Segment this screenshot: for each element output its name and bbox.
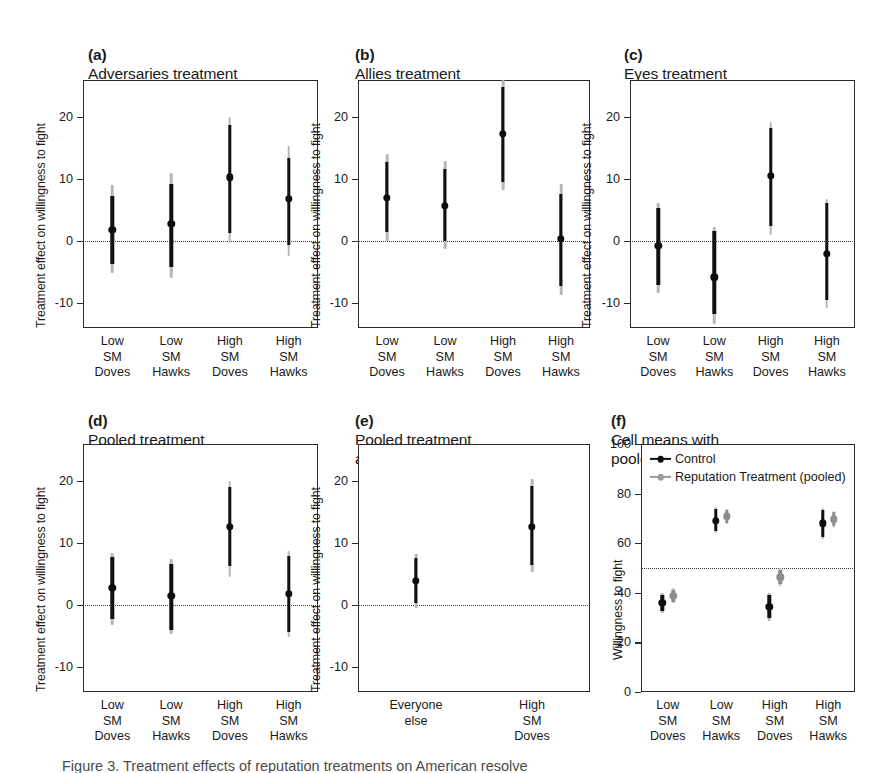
- panel-d-xtick-label: High SM Doves: [212, 698, 248, 745]
- panel-f-legend: ControlReputation Treatment (pooled): [650, 450, 846, 486]
- panel-f-xtick-label: High SM Doves: [757, 698, 793, 745]
- panel-f-ytick-mark: [635, 593, 641, 594]
- panel-f-ytick-label: 60: [0, 536, 631, 550]
- panel-c-title: (c) Eyes treatment: [624, 26, 854, 83]
- panel-c-ytick-mark: [624, 179, 630, 180]
- panel-e-xtick-label: Everyone else: [389, 698, 442, 729]
- panel-f-ytick-mark: [635, 692, 641, 693]
- panel-a-xtick-label: Low SM Doves: [95, 334, 131, 381]
- legend-item-label: Reputation Treatment (pooled): [675, 468, 846, 486]
- legend-item-label: Control: [675, 450, 716, 468]
- panel-f-ytick-mark: [635, 444, 641, 445]
- panel-c-ytick-label: 20: [0, 110, 620, 124]
- panel-b-xtick-label: High SM Doves: [485, 334, 521, 381]
- panel-c-xtick-label: High SM Hawks: [808, 334, 846, 381]
- panel-f-xtick-label: Low SM Doves: [650, 698, 686, 745]
- panel-e-ytick-mark: [352, 667, 358, 668]
- panel-e-ytick-mark: [352, 481, 358, 482]
- panel-f-ytick-label: 80: [0, 487, 631, 501]
- panel-b-tag: (b): [355, 46, 375, 63]
- panel-c-reference-line: [630, 241, 855, 242]
- panel-c-ytick-mark: [624, 303, 630, 304]
- panel-e-xtick-label: High SM Doves: [514, 698, 550, 745]
- panel-f-ytick-label: 40: [0, 586, 631, 600]
- panel-f-ytick-label: 0: [0, 685, 631, 699]
- panel-a-title: (a) Adversaries treatment: [88, 26, 338, 83]
- figure-caption-clipped: Figure 3. Treatment effects of reputatio…: [0, 760, 870, 773]
- panel-f-xtick-label: High SM Hawks: [809, 698, 847, 745]
- panel-b-title: (b) Allies treatment: [355, 26, 585, 83]
- figure-caption-text: Figure 3. Treatment effects of reputatio…: [62, 760, 528, 773]
- panel-e-plot-area: [358, 444, 590, 692]
- panel-c-tag: (c): [624, 46, 643, 63]
- panel-d-xtick-label: High SM Hawks: [270, 698, 308, 745]
- panel-f-ytick-label: 100: [0, 437, 631, 451]
- panel-a-xtick-label: High SM Doves: [212, 334, 248, 381]
- legend-marker-icon: [650, 472, 671, 482]
- legend-item[interactable]: Control: [650, 450, 846, 468]
- panel-a-xtick-label: High SM Hawks: [270, 334, 308, 381]
- panel-e-reference-line: [358, 605, 590, 606]
- panel-c-ytick-label: 0: [0, 234, 620, 248]
- panel-f-plot-area: ControlReputation Treatment (pooled): [641, 444, 855, 692]
- legend-marker-icon: [650, 454, 671, 464]
- legend-item[interactable]: Reputation Treatment (pooled): [650, 468, 846, 486]
- panel-b-xtick-label: High SM Hawks: [542, 334, 580, 381]
- panel-b-xtick-label: Low SM Hawks: [426, 334, 464, 381]
- panel-c-plot-area: [630, 80, 855, 328]
- panel-f-tag: (f): [611, 412, 626, 429]
- panel-f-xtick-label: Low SM Hawks: [702, 698, 740, 745]
- panel-f-ytick-label: 20: [0, 635, 631, 649]
- panel-b-xtick-label: Low SM Doves: [369, 334, 405, 381]
- panel-a-tag: (a): [88, 46, 107, 63]
- panel-c-ytick-label: -10: [0, 296, 620, 310]
- panel-d-xtick-label: Low SM Hawks: [152, 698, 190, 745]
- panel-c-ytick-mark: [624, 117, 630, 118]
- panel-e-frame: [358, 444, 590, 692]
- panel-f-ytick-mark: [635, 642, 641, 643]
- panel-c-ytick-label: 10: [0, 172, 620, 186]
- panel-c-frame: [630, 80, 855, 328]
- panel-e-ytick-label: 0: [0, 598, 348, 612]
- panel-f-reference-line: [641, 568, 855, 569]
- panel-c-xtick-label: Low SM Hawks: [695, 334, 733, 381]
- panel-c-xtick-label: High SM Doves: [753, 334, 789, 381]
- panel-e-ytick-label: -10: [0, 660, 348, 674]
- panel-f-ytick-mark: [635, 494, 641, 495]
- panel-d-tag: (d): [88, 412, 108, 429]
- panel-a-xtick-label: Low SM Hawks: [152, 334, 190, 381]
- panel-e-ytick-mark: [352, 605, 358, 606]
- panel-c-xtick-label: Low SM Doves: [640, 334, 676, 381]
- panel-e-tag: (e): [355, 412, 374, 429]
- panel-c-ytick-mark: [624, 241, 630, 242]
- panel-d-xtick-label: Low SM Doves: [95, 698, 131, 745]
- panel-f-ytick-mark: [635, 543, 641, 544]
- figure-container: (a) Adversaries treatment Treatment effe…: [0, 0, 870, 773]
